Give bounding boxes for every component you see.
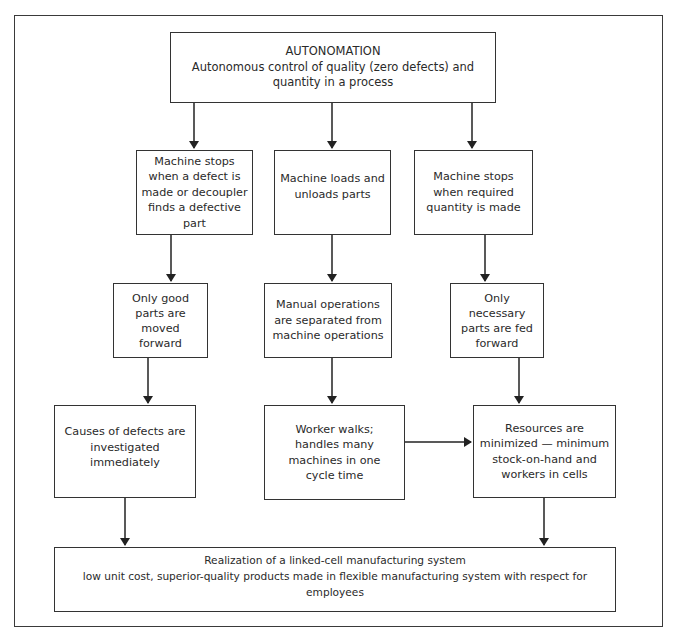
node-line: cycle time xyxy=(306,468,364,484)
node-line: Machine loads and xyxy=(280,171,385,187)
node-only-necessary-parts: Only necessary parts are fed forward xyxy=(450,283,544,358)
node-machine-stops-defect: Machine stops when a defect is made or d… xyxy=(136,150,253,235)
node-line: unloads parts xyxy=(294,187,370,203)
node-line: handles many xyxy=(295,437,374,453)
node-line: when required xyxy=(433,185,514,201)
figure-caption-clipped xyxy=(18,632,258,638)
node-line: minimized — minimum xyxy=(480,436,609,452)
node-autonomation: AUTONOMATION Autonomous control of quali… xyxy=(170,32,496,103)
node-line: made or decoupler xyxy=(141,185,247,201)
node-line: Only good xyxy=(132,291,189,306)
node-line: machine operations xyxy=(272,328,383,344)
node-line: quantity is made xyxy=(426,200,520,216)
node-machine-stops-quantity: Machine stops when required quantity is … xyxy=(414,150,533,235)
node-line: forward xyxy=(476,336,519,351)
node-line: necessary xyxy=(469,306,526,321)
node-line: workers in cells xyxy=(501,467,587,483)
node-linked-cell-realization: Realization of a linked-cell manufacturi… xyxy=(54,547,616,612)
node-worker-walks: Worker walks; handles many machines in o… xyxy=(264,405,405,500)
node-line: parts are xyxy=(135,306,185,321)
node-line: investigated xyxy=(90,440,159,456)
node-causes-investigated: Causes of defects are investigated immed… xyxy=(54,405,196,498)
node-resources-minimized: Resources are minimized — minimum stock-… xyxy=(473,405,616,498)
node-line: stock-on-hand and xyxy=(492,452,597,468)
node-line: parts are fed xyxy=(461,321,533,336)
node-machine-loads-unloads: Machine loads and unloads parts xyxy=(274,150,391,235)
node-line: are separated from xyxy=(274,313,382,329)
node-line: Only xyxy=(484,291,510,306)
node-line: machines in one xyxy=(288,453,380,469)
node-line: Autonomous control of quality (zero defe… xyxy=(192,60,474,76)
node-line: forward xyxy=(139,336,182,351)
node-line: Machine stops xyxy=(433,169,513,185)
node-line: moved xyxy=(141,321,179,336)
node-only-good-parts: Only good parts are moved forward xyxy=(113,283,208,358)
node-line: finds a defective part xyxy=(137,200,252,231)
node-line: low unit cost, superior-quality products… xyxy=(55,568,615,600)
node-line: Causes of defects are xyxy=(64,424,185,440)
node-line: Machine stops xyxy=(154,154,234,170)
node-line: Manual operations xyxy=(276,297,380,313)
node-manual-operations-separated: Manual operations are separated from mac… xyxy=(264,283,392,358)
node-line: when a defect is xyxy=(148,169,240,185)
node-line: Realization of a linked-cell manufacturi… xyxy=(204,552,466,568)
node-line: Resources are xyxy=(505,421,584,437)
node-line: Worker walks; xyxy=(295,422,373,438)
node-title: AUTONOMATION xyxy=(286,44,381,60)
node-line: immediately xyxy=(90,455,160,471)
node-line: quantity in a process xyxy=(273,75,394,91)
